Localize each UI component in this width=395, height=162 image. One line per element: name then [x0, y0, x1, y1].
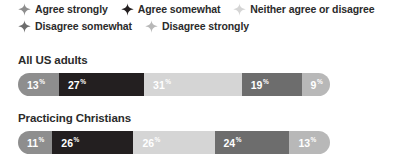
- legend-item-label: Agree strongly: [35, 4, 108, 15]
- legend-item-label: Disagree strongly: [162, 21, 249, 32]
- bar-segment[interactable]: 27%: [59, 73, 144, 96]
- bar-group-practicing-christians: Practicing Christians 11%26%26%24%13%: [18, 112, 378, 154]
- legend-item[interactable]: Agree somewhat: [121, 3, 221, 16]
- sparkle-icon: [18, 3, 31, 16]
- bar-segment[interactable]: 24%: [215, 131, 290, 154]
- bar-segment-value: 31%: [144, 79, 171, 90]
- legend-item[interactable]: Neither agree or disagree: [233, 3, 374, 16]
- chart-legend: Agree stronglyAgree somewhatNeither agre…: [18, 1, 390, 35]
- bar-segment-value: 19%: [242, 79, 269, 90]
- sparkle-icon: [18, 20, 31, 33]
- legend-row-2: Disagree somewhatDisagree strongly: [18, 18, 390, 35]
- legend-item[interactable]: Agree strongly: [18, 3, 108, 16]
- legend-item-label: Neither agree or disagree: [250, 4, 374, 15]
- legend-row-1: Agree stronglyAgree somewhatNeither agre…: [18, 1, 390, 18]
- bar-segment-value: 13%: [289, 137, 316, 148]
- legend-item-label: Disagree somewhat: [35, 21, 132, 32]
- stacked-bar: 11%26%26%24%13%: [18, 131, 330, 154]
- stacked-bar: 13%27%31%19%9%: [18, 73, 330, 96]
- legend-item[interactable]: Disagree strongly: [145, 20, 249, 33]
- bar-segment[interactable]: 19%: [242, 73, 302, 96]
- sparkle-icon: [233, 3, 246, 16]
- bar-segment-value: 9%: [302, 79, 323, 90]
- bar-segment[interactable]: 31%: [144, 73, 242, 96]
- bar-group-label: Practicing Christians: [18, 112, 378, 125]
- bar-segment[interactable]: 13%: [289, 131, 330, 154]
- sparkle-icon: [121, 3, 134, 16]
- bar-segment-value: 11%: [18, 137, 44, 148]
- bar-segment[interactable]: 26%: [52, 131, 133, 154]
- bar-segment-value: 27%: [59, 79, 86, 90]
- bar-segment[interactable]: 26%: [133, 131, 214, 154]
- bar-group-all-us-adults: All US adults 13%27%31%19%9%: [18, 54, 378, 96]
- bar-segment[interactable]: 9%: [302, 73, 330, 96]
- bar-segment-value: 26%: [133, 137, 160, 148]
- bar-group-label: All US adults: [18, 54, 378, 67]
- bar-segment-value: 24%: [215, 137, 242, 148]
- bar-segment[interactable]: 11%: [18, 131, 52, 154]
- legend-item[interactable]: Disagree somewhat: [18, 20, 132, 33]
- bar-segment-value: 26%: [52, 137, 79, 148]
- bar-segment[interactable]: 13%: [18, 73, 59, 96]
- legend-item-label: Agree somewhat: [138, 4, 221, 15]
- sparkle-icon: [145, 20, 158, 33]
- stacked-bar-chart: Agree stronglyAgree somewhatNeither agre…: [0, 0, 395, 162]
- bar-segment-value: 13%: [18, 79, 45, 90]
